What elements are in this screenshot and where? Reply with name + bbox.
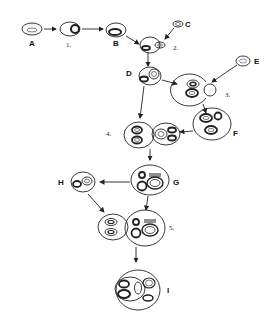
cell-d bbox=[139, 67, 161, 85]
cell-a bbox=[22, 23, 42, 35]
arrow-f-4 bbox=[180, 131, 193, 132]
cell-b bbox=[106, 23, 126, 37]
arrow-d-3 bbox=[162, 80, 177, 84]
label-i: I bbox=[167, 286, 169, 295]
cell-f bbox=[193, 108, 231, 140]
cell-2 bbox=[140, 37, 165, 53]
label-g: G bbox=[173, 178, 179, 187]
step-2: 2. bbox=[173, 44, 179, 52]
arrow-g-5 bbox=[146, 196, 148, 210]
arrow-d-4 bbox=[140, 86, 144, 118]
endosymbiosis-diagram: A B C D E F G H I 1. 2. 3. 4. 5. bbox=[0, 0, 273, 327]
cell-5 bbox=[98, 210, 165, 246]
step-5: 5. bbox=[169, 224, 175, 232]
label-c: C bbox=[185, 20, 191, 29]
step-1: 1. bbox=[66, 41, 72, 49]
label-f: F bbox=[233, 129, 238, 138]
cell-i bbox=[115, 270, 160, 310]
cell-g bbox=[131, 165, 169, 195]
step-4: 4. bbox=[106, 130, 112, 138]
cell-3 bbox=[171, 74, 216, 106]
label-e: E bbox=[254, 57, 260, 66]
arrow-e-3 bbox=[212, 65, 237, 82]
cell-h bbox=[71, 172, 95, 192]
step-3: 3. bbox=[225, 91, 231, 99]
arrow-b-2 bbox=[126, 36, 139, 44]
cell-4 bbox=[124, 122, 180, 148]
label-h: H bbox=[58, 178, 64, 187]
cell-c bbox=[173, 21, 183, 27]
arrow-h-5 bbox=[88, 194, 104, 212]
arrow-c-2 bbox=[165, 28, 174, 39]
label-a: A bbox=[29, 39, 35, 48]
cell-e bbox=[236, 56, 250, 66]
label-d: D bbox=[126, 69, 132, 78]
cell-1 bbox=[60, 22, 80, 36]
label-b: B bbox=[113, 39, 119, 48]
